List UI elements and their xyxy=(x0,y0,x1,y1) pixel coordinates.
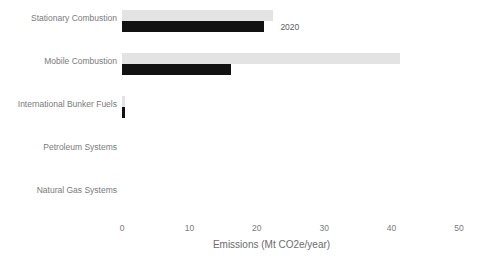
bar-2020-mobile-combustion xyxy=(122,64,231,75)
x-tick-label-50: 50 xyxy=(454,222,463,234)
bar-2020-international-bunker-fuels xyxy=(122,107,125,118)
category-label-stationary-combustion: Stationary Combustion xyxy=(31,13,117,24)
category-label-natural-gas-systems: Natural Gas Systems xyxy=(37,185,117,196)
bar-group-mobile-combustion: Mobile Combustion xyxy=(122,43,459,86)
plot-area: Stationary Combustion 2020 Mobile Combus… xyxy=(122,0,459,215)
category-label-petroleum-systems: Petroleum Systems xyxy=(43,142,117,153)
series-annotation-2020: 2020 xyxy=(280,22,299,33)
bar-group-natural-gas-systems: Natural Gas Systems xyxy=(122,172,459,215)
category-label-mobile-combustion: Mobile Combustion xyxy=(44,56,117,67)
x-tick-label-40: 40 xyxy=(387,222,396,234)
bar-previous-mobile-combustion xyxy=(122,53,400,64)
x-axis-title: Emissions (Mt CO2e/year) xyxy=(0,238,483,251)
x-axis-ticks: 01020304050 xyxy=(122,222,459,236)
bar-2020-stationary-combustion xyxy=(122,21,264,32)
bar-group-international-bunker-fuels: International Bunker Fuels xyxy=(122,86,459,129)
bar-group-stationary-combustion: Stationary Combustion 2020 xyxy=(122,0,459,43)
category-label-international-bunker-fuels: International Bunker Fuels xyxy=(18,99,117,110)
x-tick-label-10: 10 xyxy=(185,222,194,234)
x-tick-label-0: 0 xyxy=(120,222,125,234)
bar-previous-international-bunker-fuels xyxy=(122,96,125,107)
x-tick-label-30: 30 xyxy=(319,222,328,234)
emissions-bar-chart: Stationary Combustion 2020 Mobile Combus… xyxy=(0,0,483,266)
bar-previous-stationary-combustion xyxy=(122,10,273,21)
x-tick-label-20: 20 xyxy=(252,222,261,234)
bar-group-petroleum-systems: Petroleum Systems xyxy=(122,129,459,172)
